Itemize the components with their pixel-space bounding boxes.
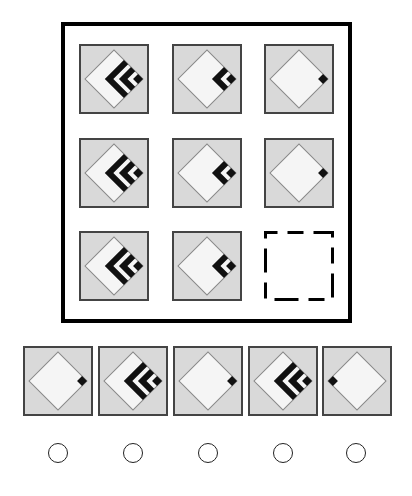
diamond-figure-icon [322, 346, 392, 416]
grid-cell-r1c3 [264, 44, 334, 114]
answer-option-2[interactable] [98, 346, 168, 416]
diamond-figure-icon [23, 346, 93, 416]
grid-cell-r1c1 [79, 44, 149, 114]
answer-radio-3[interactable] [198, 443, 218, 463]
grid-cell-r2c1 [79, 138, 149, 208]
diamond-figure-icon [264, 138, 334, 208]
grid-cell-r3c2 [172, 231, 242, 301]
grid-cell-r1c2 [172, 44, 242, 114]
dashed-box-icon [264, 231, 334, 301]
diamond-figure-icon [173, 346, 243, 416]
diamond-figure-icon [79, 231, 149, 301]
diamond-figure-icon [79, 138, 149, 208]
grid-cell-r3c1 [79, 231, 149, 301]
diamond-figure-icon [264, 44, 334, 114]
answer-option-5[interactable] [322, 346, 392, 416]
diamond-figure-icon [172, 231, 242, 301]
answer-radio-1[interactable] [48, 443, 68, 463]
answer-option-3[interactable] [173, 346, 243, 416]
diamond-figure-icon [172, 138, 242, 208]
diamond-figure-icon [98, 346, 168, 416]
answer-radio-4[interactable] [273, 443, 293, 463]
diamond-figure-icon [248, 346, 318, 416]
grid-cell-r2c3 [264, 138, 334, 208]
answer-radio-2[interactable] [123, 443, 143, 463]
diamond-figure-icon [172, 44, 242, 114]
answer-option-1[interactable] [23, 346, 93, 416]
answer-option-4[interactable] [248, 346, 318, 416]
answer-radio-5[interactable] [346, 443, 366, 463]
grid-cell-r2c2 [172, 138, 242, 208]
missing-cell-placeholder [264, 231, 334, 301]
diamond-figure-icon [79, 44, 149, 114]
